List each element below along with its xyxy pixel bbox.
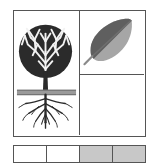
color-swatch-strip bbox=[13, 145, 146, 163]
swatch-3 bbox=[80, 146, 113, 162]
swatch-2 bbox=[47, 146, 80, 162]
emblem-main-frame bbox=[13, 10, 146, 137]
swatch-1 bbox=[14, 146, 47, 162]
emblem-graphic bbox=[0, 0, 155, 163]
tree-roots bbox=[19, 95, 72, 128]
leaf-body bbox=[90, 13, 135, 62]
blank-panel bbox=[80, 75, 144, 135]
leaf-stem bbox=[84, 56, 92, 64]
tree-icon bbox=[14, 11, 79, 135]
tree-trunk bbox=[43, 71, 48, 91]
leaf-icon bbox=[80, 11, 144, 74]
tree-canopy bbox=[19, 25, 72, 78]
leaf-panel bbox=[80, 11, 144, 75]
swatch-4 bbox=[113, 146, 145, 162]
tree-panel bbox=[14, 11, 80, 135]
